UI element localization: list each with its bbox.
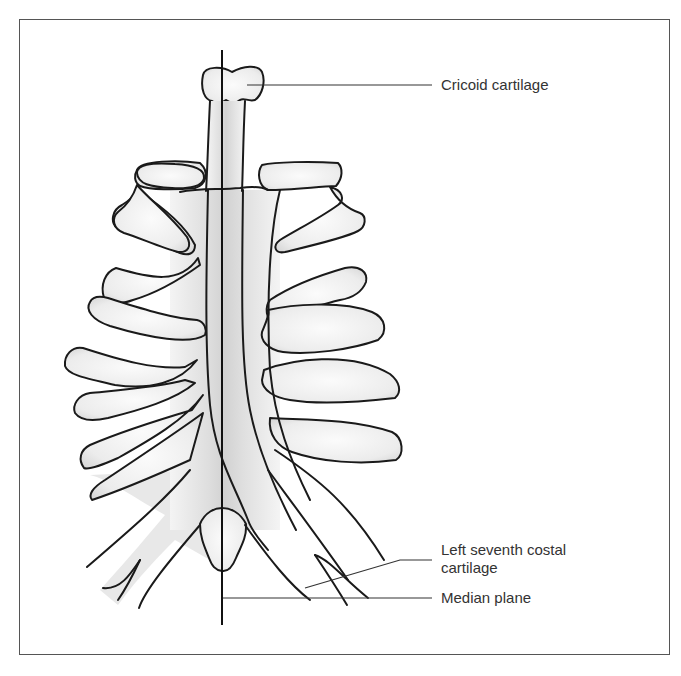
left-costal-cartilages <box>259 162 402 462</box>
thorax-diagram <box>0 0 681 676</box>
label-median-plane: Median plane <box>441 589 531 607</box>
leader-seventh-costal <box>305 560 432 588</box>
label-left-seventh-costal-line1: Left seventh costal <box>441 541 566 559</box>
xiphoid-process <box>200 508 246 571</box>
label-left-seventh-costal-line2: cartilage <box>441 559 498 577</box>
label-cricoid-cartilage: Cricoid cartilage <box>441 76 549 94</box>
